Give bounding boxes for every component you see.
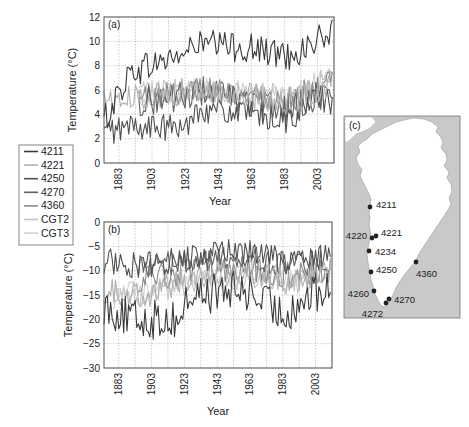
x-tick-label: 1903 [146, 373, 157, 396]
panel-label-c: (c) [349, 120, 361, 131]
station-label: 4221 [381, 227, 402, 238]
x-tick-label: 1943 [213, 168, 224, 191]
y-tick-label: −10 [83, 265, 100, 276]
chart-panel-a: (a) 024681012 18831903192319431963198320… [66, 12, 334, 208]
x-tick-label: 1883 [113, 373, 124, 396]
station-dot-icon [367, 249, 372, 254]
x-tick-label: 1903 [146, 168, 157, 191]
figure: (a) 024681012 18831903192319431963198320… [0, 0, 469, 427]
y-tick-labels-a: 024681012 [89, 12, 101, 169]
station-dot-icon [384, 301, 389, 306]
x-tick-label: 1963 [246, 168, 257, 191]
legend-label: 4360 [41, 199, 65, 211]
y-tick-label: 6 [94, 85, 100, 96]
station-label: 4250 [376, 264, 397, 275]
y-tick-label: 0 [94, 158, 100, 169]
station-dot-icon [368, 205, 373, 210]
y-tick-label: 2 [94, 133, 100, 144]
station-dot-icon [372, 289, 377, 294]
station-dot-icon [414, 260, 419, 265]
x-tick-label: 2003 [310, 373, 321, 396]
greenland-map: (c) 421142204221423442504360426042704272 [344, 116, 460, 319]
x-tick-label: 1923 [179, 373, 190, 396]
station-label: 4270 [394, 294, 415, 305]
legend-label: CGT2 [41, 213, 69, 225]
legend-label: 4250 [41, 172, 65, 184]
station-dot-icon [369, 270, 374, 275]
x-tick-label: 2003 [312, 168, 323, 191]
y-tick-label: −15 [83, 290, 100, 301]
x-tick-labels-a: 1883190319231943196319832003 [113, 168, 323, 191]
x-axis-label-a: Year [209, 195, 232, 207]
station-label: 4234 [375, 246, 396, 257]
y-axis-label-b: Temperature (°C) [62, 253, 74, 337]
legend-label: CGT3 [41, 227, 69, 239]
y-tick-label: −20 [83, 314, 100, 325]
y-tick-label: 8 [94, 60, 100, 71]
panel-label-b: (b) [108, 224, 120, 235]
x-tick-label: 1883 [113, 168, 124, 191]
station-dot-icon [374, 234, 379, 239]
y-tick-label: −30 [83, 363, 100, 374]
x-tick-label: 1943 [212, 373, 223, 396]
station-label: 4220 [346, 230, 367, 241]
x-axis-label-b: Year [207, 405, 230, 417]
x-tick-label: 1923 [180, 168, 191, 191]
x-tick-label: 1983 [279, 168, 290, 191]
y-tick-label: 4 [94, 109, 100, 120]
station-label: 4272 [362, 308, 383, 319]
y-tick-label: 12 [89, 12, 101, 23]
panel-label-a: (a) [108, 19, 120, 30]
x-tick-label: 1983 [277, 373, 288, 396]
x-tick-labels-b: 1883190319231943196319832003 [113, 373, 321, 396]
y-tick-label: −25 [83, 338, 100, 349]
legend-label: 4211 [41, 145, 64, 157]
chart-panel-b: (b) −30−25−20−15−10−50 18831903192319431… [62, 217, 332, 418]
legend: 42114221425042704360CGT2CGT3 [19, 145, 73, 245]
y-tick-label: −5 [89, 241, 101, 252]
station-label: 4211 [376, 199, 396, 210]
y-tick-label: 0 [94, 217, 100, 228]
station-label: 4260 [348, 288, 369, 299]
legend-label: 4270 [41, 186, 65, 198]
station-label: 4360 [416, 268, 437, 279]
y-tick-labels-b: −30−25−20−15−10−50 [83, 217, 100, 374]
y-tick-label: 10 [89, 36, 101, 47]
x-tick-label: 1963 [244, 373, 255, 396]
y-axis-label-a: Temperature (°C) [66, 48, 78, 132]
station-dot-icon [387, 297, 392, 302]
legend-label: 4221 [41, 159, 65, 171]
